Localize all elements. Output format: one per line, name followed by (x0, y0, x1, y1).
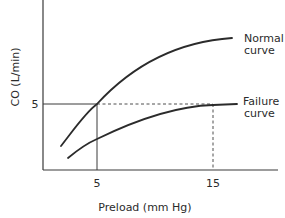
failure-curve-label-line2: curve (244, 107, 275, 120)
x-tick-15: 15 (206, 177, 220, 190)
normal-curve-label-line2: curve (244, 44, 275, 57)
y-tick-5: 5 (32, 98, 39, 111)
failure-curve (68, 104, 237, 158)
x-axis-title: Preload (mm Hg) (98, 201, 191, 214)
y-axis-title: CO (L/min) (9, 48, 22, 107)
x-tick-5: 5 (94, 177, 101, 190)
frank-starling-chart: Normal curve Failure curve 5 5 15 Preloa… (0, 0, 285, 218)
normal-curve (61, 38, 232, 146)
